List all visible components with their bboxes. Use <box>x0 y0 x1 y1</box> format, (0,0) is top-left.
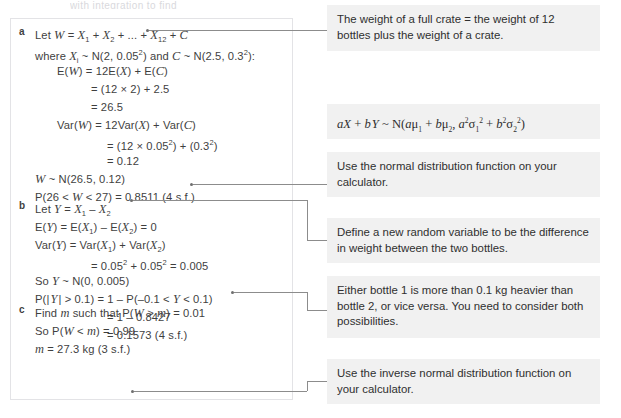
connector-line-b-h2 <box>307 240 327 241</box>
math-line: = (12 × 0.052) + (0.32) <box>35 134 292 152</box>
connector-line-b-h1 <box>133 200 307 201</box>
page-heading-sliver: with integration to find <box>70 0 290 9</box>
note-both-possibilities: Either bottle 1 is more than 0.1 kg heav… <box>327 276 600 338</box>
math-line: Find m such that P(W > m) = 0.01 <box>35 304 292 322</box>
connector-line-b-prob-h2 <box>307 310 327 311</box>
math-line: m = 27.3 kg (3 s.f.) <box>35 340 292 358</box>
math-line: E(W) = 12E(X) + E(C) <box>35 62 292 80</box>
math-line: Var(W) = 12Var(X) + Var(C) <box>35 116 292 134</box>
math-line: So Y ~ N(0, 0.005) <box>35 272 292 290</box>
connector-line-a-prob <box>193 184 327 185</box>
math-line: = (12 × 2) + 2.5 <box>35 80 292 98</box>
math-line: Let W = X1 + X2 + ... + X12 + C <box>35 26 292 44</box>
worked-solution-page: with integration to find a Let W = X1 + … <box>0 0 621 418</box>
connector-line-a <box>149 30 327 31</box>
math-line: Let Y = X1 – X2 <box>35 200 292 218</box>
math-line: = 26.5 <box>35 98 292 116</box>
math-line: Var(Y) = Var(X1) + Var(X2) <box>35 236 292 254</box>
note-define-new-variable: Define a new random variable to be the d… <box>327 218 600 263</box>
solution-part-c: c Find m such that P(W > m) = 0.01So P(W… <box>11 304 292 358</box>
connector-line-b-prob-v <box>307 292 308 310</box>
math-line: So P(W < m) = 0.99 <box>35 322 292 340</box>
connector-line-c-v <box>307 381 308 391</box>
part-label-c: c <box>19 304 25 315</box>
part-a-lines: Let W = X1 + X2 + ... + X12 + Cwhere Xi … <box>35 26 292 206</box>
worked-solution-content: a Let W = X1 + X2 + ... + X12 + Cwhere X… <box>11 19 292 399</box>
part-c-lines: Find m such that P(W > m) = 0.01So P(W <… <box>35 304 292 358</box>
math-line: = 0.052 + 0.052 = 0.005 <box>35 254 292 272</box>
solution-part-a: a Let W = X1 + X2 + ... + X12 + Cwhere X… <box>11 26 292 206</box>
math-line: where Xi ~ N(2, 0.052) and C ~ N(2.5, 0.… <box>35 44 292 62</box>
part-label-b: b <box>19 200 25 211</box>
connector-line-b-v <box>307 200 308 240</box>
math-line: = 0.12 <box>35 152 292 170</box>
part-label-a: a <box>19 26 25 37</box>
connector-line-c-h1 <box>134 391 307 392</box>
note-crate-weight: The weight of a full crate = the weight … <box>327 5 600 51</box>
math-line: W ~ N(26.5, 0.12) <box>35 170 292 188</box>
math-line: E(Y) = E(X1) – E(X2) = 0 <box>35 218 292 236</box>
connector-line-c-h2 <box>307 381 327 382</box>
note-normal-distribution-function: Use the normal distribution function on … <box>327 152 600 197</box>
note-linear-combination-formula: aX + b Y ~ N(aμ1 + bμ2, a2σ12 + b2σ22) <box>327 104 600 139</box>
worked-solution-box: a Let W = X1 + X2 + ... + X12 + Cwhere X… <box>10 18 293 400</box>
note-inverse-normal-function: Use the inverse normal distribution func… <box>327 359 600 404</box>
connector-line-b-prob-h1 <box>234 292 307 293</box>
